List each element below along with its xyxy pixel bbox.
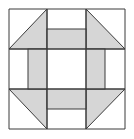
block-background (9, 9, 125, 129)
bar-left (28, 49, 47, 89)
bar-right (86, 49, 105, 89)
churn-dash-quilt-block (0, 0, 134, 139)
bar-top (47, 29, 86, 49)
bar-bottom (47, 89, 86, 109)
